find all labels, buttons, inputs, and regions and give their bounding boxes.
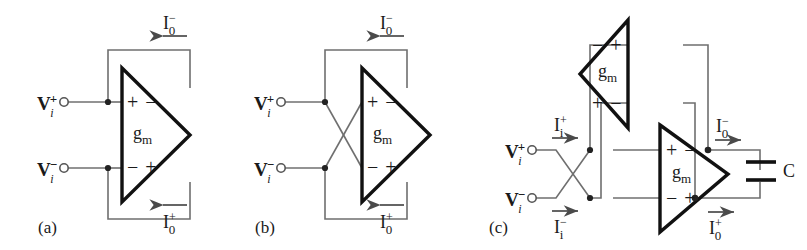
wire-cross-b-c: [536, 150, 590, 198]
ota-lower-c-gain-label: gm: [672, 163, 691, 185]
ota-upper-c-top-terminals: −+: [592, 35, 629, 55]
node-dot-top-a: [105, 99, 111, 105]
label-i-in-minus-c: I−i: [554, 216, 570, 240]
panel-b: [277, 36, 430, 219]
panel-a: [60, 36, 190, 219]
panel-label-a: (a): [38, 219, 57, 236]
label-i-out-plus-a: I+0: [163, 211, 182, 235]
label-i-out-plus-b: I+0: [380, 211, 399, 235]
node-dot-top-right-c: [705, 147, 712, 154]
label-vin-minus-a: V−i: [37, 158, 62, 183]
ota-upper-c-bottom-terminals: +−: [592, 93, 629, 113]
label-i-out-minus-b: I−0: [380, 12, 399, 36]
ota-a-bottom-terminals: −+: [127, 157, 164, 177]
ota-a-gain-label: gm: [133, 124, 152, 146]
label-i-out-minus-c: I−0: [716, 115, 735, 139]
panel-label-c: (c): [489, 219, 508, 236]
ota-lower-c-top-terminals: +−: [666, 140, 703, 160]
node-dot-bottom-left-c: [587, 195, 593, 201]
node-dot-bottom-a: [105, 165, 111, 171]
label-vin-minus-c: V−i: [505, 188, 530, 213]
ota-lower-c-bottom-terminals: −+: [666, 188, 703, 208]
wire-cross-a-c: [536, 150, 590, 198]
panel-label-b: (b): [255, 219, 275, 236]
label-capacitor-c: C: [783, 162, 795, 180]
label-vin-plus-b: V+i: [254, 92, 279, 117]
label-i-out-plus-c: I+0: [709, 217, 728, 241]
ota-a-top-terminals: +−: [127, 92, 164, 112]
label-vin-plus-c: V+i: [505, 140, 530, 165]
node-dot-top-b: [322, 99, 328, 105]
label-i-in-plus-c: I+i: [554, 114, 570, 138]
ota-b-top-terminals: +−: [367, 92, 404, 112]
label-i-out-minus-a: I−0: [163, 12, 182, 36]
label-vin-plus-a: V+i: [37, 92, 62, 117]
ota-b-bottom-terminals: −+: [367, 157, 404, 177]
node-dot-top-left-c: [587, 147, 593, 153]
ota-upper-c-gain-label: gm: [598, 62, 617, 84]
figure-canvas: V+i V−i I−0 I+0 +− −+ gm (a) V+i V−i I−0…: [0, 0, 807, 250]
node-dot-bottom-b: [322, 165, 328, 171]
circuit-svg: [0, 0, 807, 250]
label-vin-minus-b: V−i: [254, 158, 279, 183]
ota-b-gain-label: gm: [373, 124, 392, 146]
